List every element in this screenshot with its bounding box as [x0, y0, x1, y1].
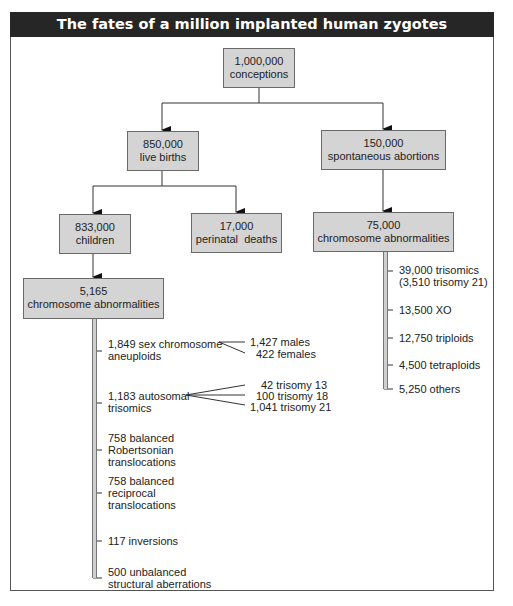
sex-split-females: 422 females: [256, 348, 316, 360]
node-label: live births: [128, 151, 198, 164]
sex-split-males: 1,427 males: [250, 336, 310, 348]
node-children: 833,000 children: [59, 214, 131, 254]
node-count: 150,000: [322, 137, 445, 150]
node-label: perinatal deaths: [192, 233, 281, 246]
node-label: conceptions: [224, 68, 294, 81]
node-count: 1,000,000: [224, 55, 294, 68]
abortion-breakdown-xo: 13,500 XO: [399, 304, 452, 316]
breakdown-robertsonian: 758 balanced Robertsonian translocations: [108, 432, 176, 468]
node-spontaneous-abortions: 150,000 spontaneous abortions: [321, 130, 446, 170]
node-label: spontaneous abortions: [322, 150, 445, 163]
autosomal-split-t21: 1,041 trisomy 21: [250, 401, 331, 413]
node-count: 5,165: [24, 285, 163, 298]
child-abnormality-bar: [92, 318, 97, 578]
abortion-breakdown-tetraploids: 4,500 tetraploids: [399, 359, 480, 371]
breakdown-reciprocal: 758 balanced reciprocal translocations: [108, 475, 176, 511]
abortion-breakdown-triploids: 12,750 triploids: [399, 332, 474, 344]
node-count: 850,000: [128, 138, 198, 151]
node-abortion-abnormalities: 75,000 chromosome abnormalities: [313, 212, 454, 252]
node-label: children: [60, 234, 130, 247]
node-child-abnormalities: 5,165 chromosome abnormalities: [23, 278, 164, 319]
node-count: 17,000: [192, 220, 281, 233]
breakdown-inversions: 117 inversions: [108, 535, 178, 547]
node-label: chromosome abnormalities: [24, 298, 163, 311]
node-perinatal-deaths: 17,000 perinatal deaths: [191, 213, 282, 253]
node-live-births: 850,000 live births: [127, 131, 199, 171]
breakdown-unbalanced: 500 unbalanced structural aberrations: [108, 566, 211, 590]
abortion-abnormality-bar: [383, 251, 388, 389]
abortion-breakdown-trisomics: 39,000 trisomics (3,510 trisomy 21): [399, 264, 488, 288]
node-conceptions: 1,000,000 conceptions: [223, 48, 295, 88]
breakdown-autosomal: 1,183 autosomal trisomics: [108, 390, 189, 414]
breakdown-sex-chromosome: 1,849 sex chromosome aneuploids: [108, 338, 222, 362]
abortion-breakdown-others: 5,250 others: [399, 383, 460, 395]
node-count: 75,000: [314, 219, 453, 232]
node-label: chromosome abnormalities: [314, 232, 453, 245]
node-count: 833,000: [60, 221, 130, 234]
